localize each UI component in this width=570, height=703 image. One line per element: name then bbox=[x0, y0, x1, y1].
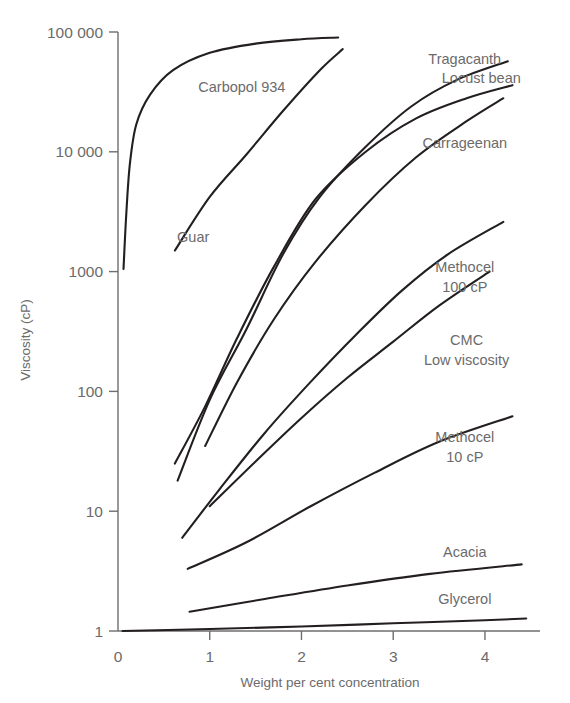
x-axis-title: Weight per cent concentration bbox=[240, 675, 419, 690]
series-label-cmc-low-viscosity: CMC bbox=[450, 332, 483, 348]
series-label-acacia: Acacia bbox=[443, 544, 487, 560]
x-axis-ticks: 01234 bbox=[114, 631, 490, 665]
series-label-carrageenan: Carrageenan bbox=[422, 135, 507, 151]
series-label-glycerol: Glycerol bbox=[438, 591, 491, 607]
series-sublabel-methocel-10-cp: 10 cP bbox=[446, 449, 483, 465]
series-label-tragacanth: Tragacanth bbox=[428, 51, 501, 67]
y-tick-label: 10 000 bbox=[56, 143, 104, 160]
y-tick-label: 10 bbox=[86, 503, 104, 520]
series-labels: Carbopol 934GuarTragacanthLocust beanCar… bbox=[177, 51, 521, 607]
x-tick-label: 2 bbox=[297, 648, 306, 665]
y-axis-title: Viscosity (cP) bbox=[18, 299, 33, 381]
y-tick-label: 100 bbox=[77, 383, 103, 400]
x-tick-label: 0 bbox=[114, 648, 123, 665]
series-line-carbopol-934 bbox=[124, 37, 339, 269]
y-tick-label: 1 bbox=[94, 623, 103, 640]
y-axis-ticks: 110100100010 000100 000 bbox=[47, 24, 118, 640]
series-sublabel-cmc-low-viscosity: Low viscosity bbox=[424, 352, 510, 368]
x-tick-label: 1 bbox=[205, 648, 214, 665]
series-label-guar: Guar bbox=[177, 229, 209, 245]
series-line-glycerol bbox=[123, 619, 527, 631]
chart-svg: 110100100010 000100 000 01234 Carbopol 9… bbox=[0, 0, 570, 703]
x-tick-label: 3 bbox=[389, 648, 398, 665]
x-tick-label: 4 bbox=[481, 648, 490, 665]
y-tick-label: 1000 bbox=[69, 263, 104, 280]
series-label-carbopol-934: Carbopol 934 bbox=[198, 79, 285, 95]
y-tick-label: 100 000 bbox=[47, 24, 103, 41]
series-label-methocel-100-cp: Methocel bbox=[435, 259, 494, 275]
series-label-locust-bean: Locust bean bbox=[442, 70, 521, 86]
series-label-methocel-10-cp: Methocel bbox=[435, 429, 494, 445]
series-sublabel-methocel-100-cp: 100 cP bbox=[442, 279, 487, 295]
viscosity-concentration-chart: 110100100010 000100 000 01234 Carbopol 9… bbox=[0, 0, 570, 703]
